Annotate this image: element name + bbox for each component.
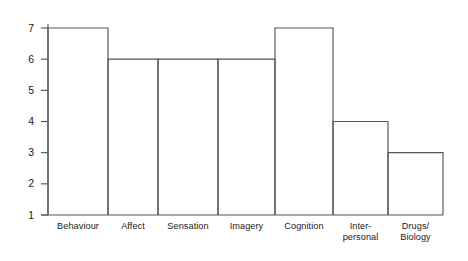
y-tick-label: 5 bbox=[20, 85, 34, 96]
y-tick-label: 4 bbox=[20, 116, 34, 127]
bar-behaviour bbox=[48, 28, 108, 215]
x-tick-label-drugs-biology: Drugs/ Biology bbox=[377, 221, 454, 244]
bar-sensation bbox=[158, 59, 218, 215]
bar-cognition bbox=[275, 28, 333, 215]
bar-chart-figure: 1234567 BehaviourAffectSensationImageryC… bbox=[0, 0, 468, 261]
bar-affect bbox=[108, 59, 158, 215]
y-tick-label: 6 bbox=[20, 54, 34, 65]
y-tick-label: 7 bbox=[20, 23, 34, 34]
y-tick-label: 2 bbox=[20, 178, 34, 189]
y-tick-label: 3 bbox=[20, 147, 34, 158]
bar-inter-personal bbox=[333, 122, 388, 216]
bar-series bbox=[48, 28, 443, 215]
y-axis-ticks bbox=[41, 28, 48, 215]
bar-drugs-biology bbox=[388, 153, 443, 215]
bar-imagery bbox=[218, 59, 275, 215]
y-tick-label: 1 bbox=[20, 210, 34, 221]
